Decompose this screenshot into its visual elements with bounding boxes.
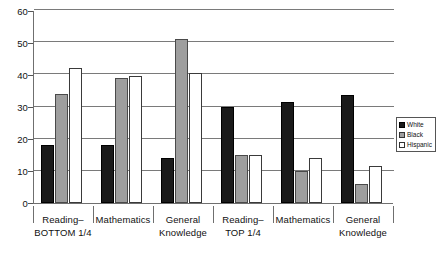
x-axis-category-label: Reading–BOTTOM 1/4 bbox=[33, 214, 93, 239]
x-label-line-2: Knowledge bbox=[333, 227, 393, 240]
legend-swatch-black-icon bbox=[399, 132, 405, 138]
gridline bbox=[34, 41, 394, 42]
bar bbox=[55, 94, 69, 203]
y-tick-label: 30 bbox=[6, 102, 28, 113]
y-tick-label: 20 bbox=[6, 134, 28, 145]
bar bbox=[129, 76, 143, 203]
y-tick-label: 50 bbox=[6, 38, 28, 49]
gridline bbox=[34, 9, 394, 10]
y-tick-label: 40 bbox=[6, 70, 28, 81]
x-axis-category-label: Reading–TOP 1/4 bbox=[213, 214, 273, 239]
bar bbox=[69, 68, 83, 203]
bar bbox=[221, 107, 235, 204]
legend-swatch-hispanic-icon bbox=[399, 142, 405, 148]
legend-item: White bbox=[399, 120, 433, 129]
x-label-line-1: General bbox=[153, 214, 213, 227]
chart-legend: White Black Hispanic bbox=[396, 117, 436, 152]
bar bbox=[115, 78, 129, 203]
bar bbox=[369, 166, 383, 203]
legend-swatch-white-icon bbox=[399, 122, 405, 128]
bar bbox=[161, 158, 175, 203]
x-axis-category-label: Mathematics bbox=[93, 214, 153, 227]
x-label-line-1: Mathematics bbox=[93, 214, 153, 227]
bar bbox=[295, 171, 309, 203]
bar bbox=[341, 95, 355, 203]
x-axis-category-label: GeneralKnowledge bbox=[333, 214, 393, 239]
y-tick-label: 0 bbox=[6, 198, 28, 209]
bar bbox=[309, 158, 323, 203]
x-label-line-2: Knowledge bbox=[153, 227, 213, 240]
bar bbox=[189, 73, 203, 203]
gridline bbox=[34, 73, 394, 74]
bar-chart: 60 50 40 30 20 10 0 Reading–BOTTOM 1/4Ma… bbox=[0, 0, 439, 255]
y-tick-label: 60 bbox=[6, 6, 28, 17]
x-label-line-2: TOP 1/4 bbox=[213, 227, 273, 240]
bar bbox=[101, 145, 115, 203]
bar bbox=[41, 145, 55, 203]
legend-item: Hispanic bbox=[399, 140, 433, 149]
bar bbox=[249, 155, 263, 203]
legend-label: Hispanic bbox=[407, 141, 432, 149]
x-label-line-1: General bbox=[333, 214, 393, 227]
legend-item: Black bbox=[399, 130, 433, 139]
x-label-line-1: Reading– bbox=[213, 214, 273, 227]
x-axis-category-label: GeneralKnowledge bbox=[153, 214, 213, 239]
x-axis-category-label: Mathematics bbox=[273, 214, 333, 227]
x-label-line-2: BOTTOM 1/4 bbox=[33, 227, 93, 240]
y-tick-label: 10 bbox=[6, 166, 28, 177]
x-label-line-1: Reading– bbox=[33, 214, 93, 227]
x-label-line-1: Mathematics bbox=[273, 214, 333, 227]
bar bbox=[235, 155, 249, 203]
bar bbox=[175, 39, 189, 203]
bar bbox=[355, 184, 369, 203]
bar bbox=[281, 102, 295, 203]
legend-label: White bbox=[407, 121, 424, 129]
legend-label: Black bbox=[407, 131, 423, 139]
category-separator bbox=[393, 206, 394, 223]
plot-area bbox=[33, 11, 393, 204]
